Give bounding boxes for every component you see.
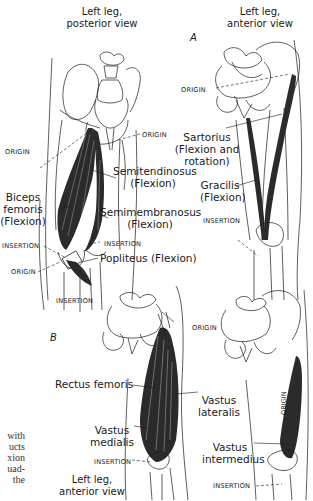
label-line: lateralis xyxy=(197,406,241,418)
caption-line: ucts xyxy=(0,441,25,452)
label-origin-anterior: ORIGIN xyxy=(181,86,206,94)
label-line: Sartorius xyxy=(172,131,242,143)
anatomy-illustration xyxy=(0,0,313,501)
sartorius-gracilis-muscles xyxy=(246,74,296,240)
title-line-2: posterior view xyxy=(62,18,142,30)
label-rectus-femoris: Rectus femoris xyxy=(55,378,133,390)
label-line: Biceps xyxy=(0,191,46,203)
quadriceps-muscles xyxy=(140,328,179,462)
label-insertion-b: INSERTION xyxy=(94,458,131,466)
pelvis-anterior xyxy=(216,40,302,300)
label-origin-top: ORIGIN xyxy=(142,131,167,139)
panel-label-b: B xyxy=(50,332,57,343)
label-insertion-left: INSERTION xyxy=(2,242,39,250)
label-line: (Flexion) xyxy=(200,191,240,203)
title-line-1: Left leg, xyxy=(220,6,300,18)
label-semitendinosus: Semitendinosus (Flexion) xyxy=(113,165,193,189)
label-line: (Flexion) xyxy=(100,218,200,230)
label-origin-knee: ORIGIN xyxy=(11,268,36,276)
label-line: Vastus xyxy=(197,394,241,406)
caption-fragment: with ucts xion uad- the xyxy=(0,430,25,485)
label-gracilis: Gracilis (Flexion) xyxy=(200,179,240,203)
label-line: (Flexion) xyxy=(0,215,46,227)
title-line-1: Left leg, xyxy=(62,6,142,18)
caption-line: uad- xyxy=(0,463,25,474)
label-line: Vastus xyxy=(202,441,258,453)
title-anterior-view-b: Left leg, anterior view xyxy=(56,474,128,498)
label-popliteus: Popliteus (Flexion) xyxy=(100,252,197,264)
label-line: (Flexion) xyxy=(113,177,193,189)
label-sartorius: Sartorius (Flexion and rotation) xyxy=(172,131,242,167)
label-insertion-right: INSERTION xyxy=(104,240,141,248)
label-insertion-anterior: INSERTION xyxy=(203,217,240,225)
label-line: rotation) xyxy=(172,155,242,167)
label-semimembranosus: Semimembranosus (Flexion) xyxy=(100,206,200,230)
title-line-2: anterior view xyxy=(220,18,300,30)
label-line: medialis xyxy=(90,436,134,448)
label-line: intermedius xyxy=(202,453,258,465)
label-biceps-femoris: Biceps femoris (Flexion) xyxy=(0,191,46,227)
label-line: Semimembranosus xyxy=(100,206,200,218)
label-insertion-b2: INSERTION xyxy=(213,482,250,490)
label-vastus-intermedius: Vastus intermedius xyxy=(202,441,258,465)
label-line: femoris xyxy=(0,203,46,215)
caption-line: the xyxy=(0,474,25,485)
label-origin-b: ORIGIN xyxy=(192,324,217,332)
panel-label-a: A xyxy=(190,32,197,43)
label-line: Vastus xyxy=(90,424,134,436)
caption-line: with xyxy=(0,430,25,441)
label-line: (Flexion and xyxy=(172,143,242,155)
title-line-1: Left leg, xyxy=(56,474,128,486)
title-posterior-view: Left leg, posterior view xyxy=(62,6,142,30)
label-origin-left: ORIGIN xyxy=(5,148,30,156)
label-line: Gracilis xyxy=(200,179,240,191)
caption-line: xion xyxy=(0,452,25,463)
label-vastus-medialis: Vastus medialis xyxy=(90,424,134,448)
label-insertion-bottom: INSERTION xyxy=(56,297,93,305)
title-anterior-view-a: Left leg, anterior view xyxy=(220,6,300,30)
label-origin-vertical: ORIGIN xyxy=(280,391,288,415)
title-line-2: anterior view xyxy=(56,486,128,498)
label-vastus-lateralis: Vastus lateralis xyxy=(197,394,241,418)
